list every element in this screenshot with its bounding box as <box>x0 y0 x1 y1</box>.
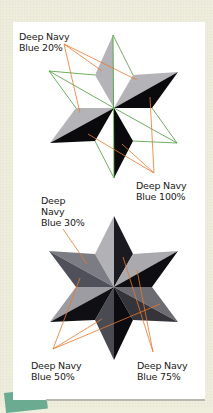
label-deep-navy-blue-100: Deep Navy Blue 100% <box>136 180 186 202</box>
bottom-star <box>49 216 178 360</box>
top-point-left-facet <box>95 35 114 108</box>
label-deep-navy-blue-30: Deep Navy Blue 30% <box>41 195 85 228</box>
top-star <box>49 35 178 178</box>
label-deep-navy-blue-75: Deep Navy Blue 75% <box>137 360 187 382</box>
bottom-point-right-facet <box>114 108 133 178</box>
green-wireframe-outline <box>49 35 177 178</box>
label-deep-navy-blue-50: Deep Navy Blue 50% <box>31 360 81 382</box>
label-deep-navy-blue-20: Deep Navy Blue 20% <box>19 31 69 53</box>
